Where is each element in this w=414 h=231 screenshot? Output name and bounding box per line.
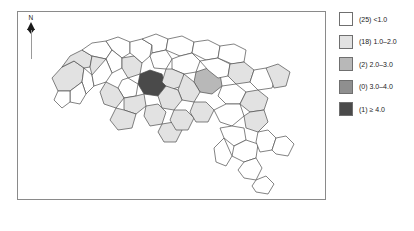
county-polygon bbox=[238, 158, 262, 180]
county-polygon bbox=[272, 136, 294, 156]
legend-row: (2) 2.0–3.0 bbox=[339, 53, 414, 76]
legend-swatch bbox=[339, 35, 353, 49]
legend-label: (18) 1.0–2.0 bbox=[359, 37, 397, 46]
figure-root: N (25) <1.0(18) 1.0–2.0(2) 2.0–3.0(0) 3.… bbox=[0, 0, 414, 231]
legend-row: (0) 3.0–4.0 bbox=[339, 76, 414, 99]
legend-swatch bbox=[339, 102, 353, 116]
county-polygon bbox=[214, 104, 244, 126]
legend-label: (0) 3.0–4.0 bbox=[359, 82, 393, 91]
legend-row: (1) ≥ 4.0 bbox=[339, 98, 414, 121]
county-polygon bbox=[244, 110, 268, 132]
legend-label: (1) ≥ 4.0 bbox=[359, 105, 385, 114]
legend: (25) <1.0(18) 1.0–2.0(2) 2.0–3.0(0) 3.0–… bbox=[339, 8, 414, 121]
legend-row: (18) 1.0–2.0 bbox=[339, 31, 414, 54]
legend-label: (25) <1.0 bbox=[359, 15, 387, 24]
north-arrow-shaft bbox=[31, 30, 32, 59]
county-polygon bbox=[166, 36, 194, 56]
north-arrow-icon: N bbox=[22, 14, 40, 60]
legend-swatch bbox=[339, 12, 353, 26]
choropleth-map bbox=[18, 12, 327, 201]
county-polygon bbox=[54, 91, 70, 108]
legend-label: (2) 2.0–3.0 bbox=[359, 60, 393, 69]
county-polygon bbox=[150, 50, 172, 69]
north-arrow-label: N bbox=[22, 14, 40, 22]
map-panel bbox=[17, 11, 326, 200]
county-polygon-layer bbox=[52, 34, 294, 194]
legend-swatch bbox=[339, 57, 353, 71]
legend-swatch bbox=[339, 80, 353, 94]
legend-row: (25) <1.0 bbox=[339, 8, 414, 31]
